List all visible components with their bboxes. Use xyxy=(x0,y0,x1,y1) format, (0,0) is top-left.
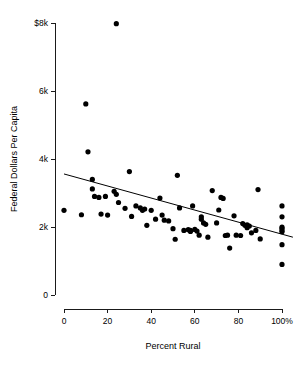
data-point xyxy=(279,214,284,219)
regression-trendline xyxy=(64,174,293,237)
data-point xyxy=(173,237,178,242)
data-point xyxy=(205,235,210,240)
x-axis-tick-label-2: 40 xyxy=(146,316,156,326)
data-point xyxy=(116,200,121,205)
x-axis-tick-label-1: 20 xyxy=(103,316,113,326)
x-axis-tick-label-4: 80 xyxy=(234,316,244,326)
data-point xyxy=(79,212,84,217)
data-point xyxy=(153,217,158,222)
data-point xyxy=(122,206,127,211)
y-axis-tick-label-4: $8k xyxy=(34,18,48,28)
data-point xyxy=(214,220,219,225)
data-point xyxy=(114,21,119,26)
data-point xyxy=(225,233,230,238)
data-point xyxy=(162,218,167,223)
data-point xyxy=(160,213,165,218)
data-point xyxy=(203,222,208,227)
data-point xyxy=(149,208,154,213)
plot-canvas: 02k4k6k$8k 020406080100% Percent RuralFe… xyxy=(0,0,308,367)
x-axis: 020406080100% xyxy=(62,309,294,326)
data-point xyxy=(279,203,284,208)
data-point xyxy=(114,192,119,197)
data-point xyxy=(144,223,149,228)
y-axis: 02k4k6k$8k xyxy=(34,18,55,300)
y-axis-tick-label-3: 6k xyxy=(39,86,49,96)
data-point xyxy=(129,214,134,219)
data-point xyxy=(142,206,147,211)
data-point xyxy=(85,149,90,154)
data-points-layer xyxy=(61,21,284,267)
y-axis-tick-label-2: 4k xyxy=(39,154,49,164)
data-point xyxy=(258,236,263,241)
data-point xyxy=(197,233,202,238)
data-point xyxy=(249,230,254,235)
data-point xyxy=(92,194,97,199)
data-point xyxy=(170,226,175,231)
data-point xyxy=(255,187,260,192)
scatter-plot-figure: 02k4k6k$8k 020406080100% Percent RuralFe… xyxy=(0,0,308,367)
data-point xyxy=(98,211,103,216)
x-axis-tick-label-5: 100% xyxy=(271,316,293,326)
data-point xyxy=(175,173,180,178)
data-point xyxy=(253,228,258,233)
data-point xyxy=(227,245,232,250)
y-axis-tick-label-0: 0 xyxy=(43,290,48,300)
data-point xyxy=(199,214,204,219)
data-point xyxy=(61,208,66,213)
data-point xyxy=(190,203,195,208)
data-point xyxy=(231,213,236,218)
data-point xyxy=(166,218,171,223)
data-point xyxy=(103,194,108,199)
data-point xyxy=(96,195,101,200)
data-point xyxy=(181,228,186,233)
data-point xyxy=(279,262,284,267)
data-point xyxy=(221,196,226,201)
trendline-layer xyxy=(64,174,293,237)
data-point xyxy=(216,207,221,212)
x-axis-tick-label-0: 0 xyxy=(62,316,67,326)
x-axis-title: Percent Rural xyxy=(145,341,200,351)
data-point xyxy=(238,233,243,238)
data-point xyxy=(127,169,132,174)
data-point xyxy=(90,186,95,191)
x-axis-tick-label-3: 60 xyxy=(190,316,200,326)
data-point xyxy=(83,101,88,106)
data-point xyxy=(279,242,284,247)
y-axis-tick-label-1: 2k xyxy=(39,222,49,232)
y-axis-title: Federal Dollars Per Capita xyxy=(9,106,19,212)
data-point xyxy=(105,213,110,218)
data-point xyxy=(210,188,215,193)
